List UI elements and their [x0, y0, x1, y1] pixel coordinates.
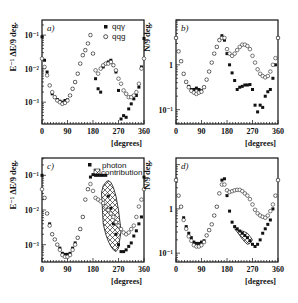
data-point — [99, 91, 102, 94]
data-point — [269, 88, 272, 91]
data-point — [46, 71, 49, 74]
legend-marker-open — [104, 35, 108, 39]
data-point — [205, 78, 209, 82]
data-point — [179, 205, 183, 209]
data-point — [53, 95, 57, 99]
data-point — [117, 77, 121, 81]
data-point — [235, 48, 239, 52]
data-point — [137, 86, 140, 89]
data-point — [274, 56, 278, 60]
series-qq-g — [174, 178, 280, 248]
data-point — [142, 57, 146, 61]
x-tick-label: 90 — [64, 127, 72, 136]
data-point — [78, 62, 82, 66]
data-point — [251, 54, 255, 58]
data-point — [184, 80, 188, 84]
data-point — [231, 221, 234, 224]
y-tick-label: 10⁻³ — [24, 98, 39, 107]
data-point — [187, 85, 191, 89]
data-point — [264, 227, 267, 230]
data-point — [215, 205, 219, 209]
data-point — [107, 195, 110, 198]
data-point — [84, 48, 88, 52]
series-qq-g — [174, 36, 280, 96]
data-point — [43, 196, 47, 200]
data-point — [266, 90, 269, 93]
data-point — [132, 235, 135, 238]
data-point — [117, 89, 120, 92]
data-point — [256, 110, 259, 113]
series-qq-gamma — [175, 34, 280, 113]
panel-b: 090180270360[degrees]110⁻¹N/9 deg.b) — [142, 20, 284, 148]
x-tick-label: 270 — [247, 127, 259, 136]
x-tick-label: 0 — [40, 127, 44, 136]
data-point — [233, 79, 236, 82]
data-point — [45, 212, 49, 216]
data-point — [84, 198, 88, 202]
data-point — [127, 245, 130, 248]
y-tick-label: 10⁻¹ — [24, 31, 39, 40]
data-point — [266, 223, 269, 226]
data-point — [253, 61, 257, 65]
data-point — [86, 187, 90, 191]
data-point — [114, 69, 118, 73]
legend-hatch-swatch — [94, 169, 100, 174]
data-point — [41, 174, 44, 177]
data-point — [251, 203, 255, 207]
data-point — [86, 42, 90, 46]
data-point — [48, 224, 52, 228]
data-point — [212, 214, 216, 218]
data-point — [137, 222, 140, 225]
data-point — [182, 72, 186, 76]
data-point — [223, 36, 227, 40]
panel-a: 090180270360[degrees]10⁻¹10⁻²10⁻³E⁻¹ ΔE/… — [8, 20, 150, 148]
x-tick-label: 0 — [174, 265, 178, 274]
x-tick-label: 90 — [198, 127, 206, 136]
data-point — [228, 63, 231, 66]
data-point — [269, 209, 273, 213]
data-point — [266, 214, 270, 218]
legend-label: qqg — [112, 32, 125, 41]
y-axis-label: N/9 deg. — [142, 22, 152, 52]
x-tick-label: 180 — [87, 265, 99, 274]
data-point — [215, 45, 219, 49]
data-point — [117, 224, 121, 228]
data-point — [114, 220, 118, 224]
data-point — [94, 69, 98, 73]
data-point — [177, 50, 181, 54]
data-point — [254, 104, 257, 107]
data-point — [207, 228, 211, 232]
y-axis-label: E⁻¹ ΔE/9 deg. — [8, 22, 18, 71]
plot-frame — [176, 158, 278, 262]
y-tick-label: 10⁻¹ — [158, 106, 173, 115]
data-point — [40, 57, 44, 61]
x-tick-label: 90 — [198, 265, 206, 274]
data-point — [68, 94, 72, 98]
series-qq-g — [40, 33, 146, 105]
data-point — [130, 102, 133, 105]
data-point — [135, 90, 139, 94]
data-point — [210, 223, 214, 227]
x-tick-label: 180 — [221, 127, 233, 136]
panel-c: 090180270360[degrees]10⁻¹10⁻²10⁻³E⁻¹ ΔE/… — [8, 158, 150, 286]
data-point — [226, 194, 229, 197]
data-point — [81, 215, 85, 219]
data-point — [223, 183, 227, 187]
data-point — [256, 243, 259, 246]
y-axis-label: E⁻¹ ΔE/9 deg. — [8, 160, 18, 209]
data-point — [248, 47, 252, 51]
data-point — [91, 189, 95, 193]
data-point — [40, 187, 44, 191]
data-point — [261, 106, 264, 109]
x-axis-label: [degrees] — [111, 277, 142, 286]
data-point — [276, 178, 280, 182]
data-point — [89, 33, 93, 37]
data-point — [137, 205, 141, 209]
x-tick-label: 180 — [221, 265, 233, 274]
data-point — [225, 47, 229, 51]
legend-label: qqγ — [112, 22, 125, 31]
data-point — [135, 215, 139, 219]
panel-label: c) — [47, 161, 54, 171]
panel-label: d) — [181, 161, 189, 171]
data-point — [127, 107, 130, 110]
